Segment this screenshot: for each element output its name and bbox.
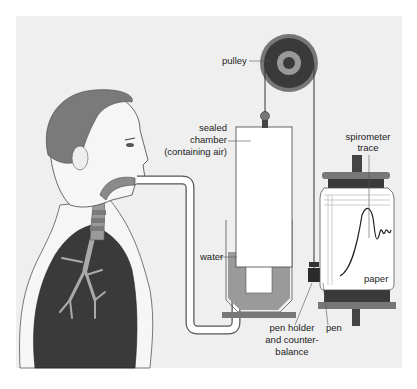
label-trace-1: spirometer <box>346 131 391 142</box>
label-paper: paper <box>364 273 388 284</box>
label-water: water <box>199 251 223 262</box>
label-trace-2: trace <box>357 142 378 153</box>
label-chamber-3: (containing air) <box>164 146 227 157</box>
label-pulley: pulley <box>222 55 247 66</box>
label-pen: pen <box>326 322 342 333</box>
label-chamber-2: chamber <box>190 134 227 145</box>
label-chamber-1: sealed <box>199 122 227 133</box>
human-figure <box>20 90 153 368</box>
recording-drum <box>318 155 396 326</box>
label-pen-holder-3: balance <box>275 346 308 357</box>
spirometer-diagram: pulley sealed chamber (containing air) s… <box>0 0 417 389</box>
label-pen-holder-2: and counter- <box>265 334 318 345</box>
sealed-chamber <box>236 127 292 267</box>
label-pen-holder-1: pen holder <box>270 322 315 333</box>
tank-base <box>222 312 296 318</box>
